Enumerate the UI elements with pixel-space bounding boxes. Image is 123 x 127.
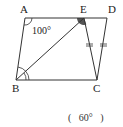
geometry-diagram: A E D B C 100° ( 60° ) [0,0,123,127]
label-e: E [80,3,87,15]
answer-text: ( 60° ) [68,112,104,124]
segment-dc [97,18,107,80]
label-a: A [20,3,28,15]
angle-b-arc-inner [24,73,26,80]
angle-a-value: 100° [32,25,51,36]
label-c: C [93,82,100,94]
segment-ab [16,18,25,80]
label-b: B [12,82,19,94]
label-d: D [108,3,116,15]
segment-ec [84,18,97,80]
